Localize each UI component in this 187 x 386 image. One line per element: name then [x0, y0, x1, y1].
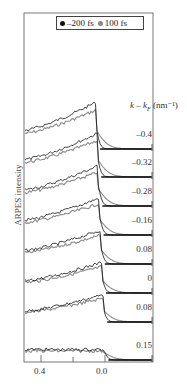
- k-value-label: –0.32: [112, 157, 152, 167]
- arpes-chart: [0, 0, 187, 386]
- k-value-label: 0.08: [112, 302, 152, 312]
- k-value-label: –0.16: [112, 215, 152, 225]
- black-dot-icon: [60, 21, 65, 26]
- legend: –200 fs 100 fs: [56, 16, 144, 30]
- k-value-label: 0.08: [112, 244, 152, 254]
- x-tick-0.4: 0.4: [34, 366, 45, 376]
- legend-item-100: 100 fs: [98, 18, 127, 28]
- traces: [25, 102, 152, 362]
- legend-item-minus200: –200 fs: [60, 18, 94, 28]
- gray-dot-icon: [98, 21, 103, 26]
- k-value-label: –0.28: [112, 186, 152, 196]
- k-value-label: 0: [112, 273, 152, 283]
- y-axis-label: ARPES intensity: [13, 155, 23, 235]
- k-value-label: –0.4: [112, 129, 152, 139]
- k-value-label: 0.15: [112, 340, 152, 350]
- x-tick-0.0: 0.0: [96, 366, 107, 376]
- k-axis-label: k – kF (nm⁻¹): [130, 100, 178, 112]
